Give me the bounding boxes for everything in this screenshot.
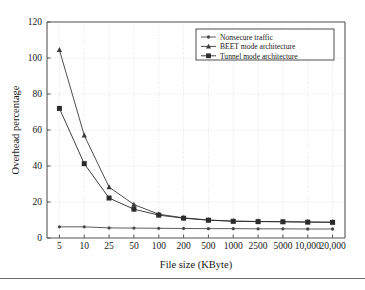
- legend-square-marker-icon: [206, 53, 211, 58]
- x-tick-label: 50: [129, 241, 139, 251]
- x-tick-label: 25: [104, 241, 114, 251]
- x-tick-label: 10,000: [295, 241, 321, 251]
- y-tick-label: 0: [37, 233, 42, 243]
- x-tick-label: 500: [201, 241, 216, 251]
- x-tick-label: 5000: [273, 241, 292, 251]
- x-axis-title: File size (KByte): [160, 259, 233, 271]
- y-tick-label: 20: [33, 197, 43, 207]
- y-tick-label: 40: [33, 161, 43, 171]
- legend-label-0: Nonsecure traffic: [220, 33, 273, 42]
- chart-canvas: 020406080100120 510255010020050010002500…: [0, 0, 365, 290]
- y-tick-label: 100: [28, 53, 43, 63]
- x-tick-label: 100: [152, 241, 167, 251]
- y-tick-label: 120: [28, 17, 43, 27]
- x-tick-label: 1000: [224, 241, 243, 251]
- chart-legend: Nonsecure trafficBEET mode architectureT…: [196, 29, 334, 61]
- page-bottom-rule: [0, 278, 365, 279]
- legend-label-1: BEET mode architecture: [220, 42, 296, 51]
- y-axis-title: Overhead percentage: [10, 85, 21, 174]
- x-tick-label: 10: [80, 241, 90, 251]
- legend-circle-marker-icon: [207, 35, 210, 38]
- y-tick-label: 60: [33, 125, 43, 135]
- x-tick-label: 200: [176, 241, 191, 251]
- x-tick-label: 2500: [249, 241, 268, 251]
- y-tick-label: 80: [33, 89, 43, 99]
- x-tick-label: 20,000: [320, 241, 346, 251]
- legend-label-2: Tunnel mode architecture: [220, 52, 298, 61]
- chart-figure: 020406080100120 510255010020050010002500…: [0, 0, 365, 290]
- x-tick-label: 5: [57, 241, 62, 251]
